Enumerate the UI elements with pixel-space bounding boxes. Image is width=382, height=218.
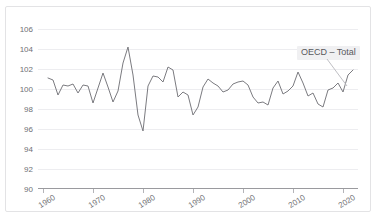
y-axis-tick-label: 90	[24, 185, 33, 194]
x-axis-tick-label: 2010	[287, 193, 307, 210]
chart-container: 9092949698100102104106 19601970198019902…	[0, 0, 382, 218]
x-axis-tick-label: 1970	[87, 193, 107, 210]
x-axis-tick-label: 2000	[237, 193, 257, 210]
y-axis-tick-label: 102	[20, 65, 33, 74]
x-axis-labels: 1960197019801990200020102020	[38, 193, 358, 217]
x-axis-tick-label: 1960	[37, 193, 57, 210]
y-axis-labels: 9092949698100102104106	[0, 19, 33, 189]
y-axis-tick-label: 92	[24, 165, 33, 174]
legend-label-oecd-total: OECD – Total	[297, 46, 360, 60]
x-axis-line	[38, 188, 358, 189]
plot-area	[38, 19, 358, 189]
y-axis-tick-label: 96	[24, 125, 33, 134]
y-axis-tick-label: 104	[20, 45, 33, 54]
x-axis-tick-label: 2020	[337, 193, 357, 210]
x-axis-tick-label: 1990	[187, 193, 207, 210]
y-axis-tick-label: 94	[24, 145, 33, 154]
x-axis-tick-label: 1980	[137, 193, 157, 210]
series-line-oecd-total	[38, 19, 358, 189]
y-axis-tick-label: 100	[20, 85, 33, 94]
y-axis-tick-label: 98	[24, 105, 33, 114]
y-axis-tick-label: 106	[20, 25, 33, 34]
